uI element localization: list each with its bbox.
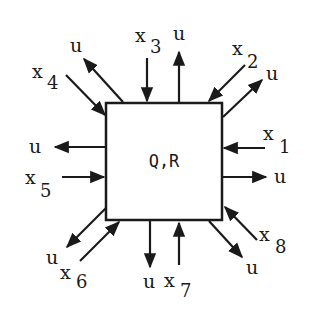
output-arrow-u-bottomright	[209, 221, 242, 257]
input-arrow-x8	[225, 207, 257, 240]
label-x4: x 4	[32, 60, 58, 93]
label-u-topleft: u	[70, 34, 82, 56]
label-u-top: u	[173, 22, 185, 44]
label-x5: x 5	[25, 166, 51, 201]
svg-text:x: x	[60, 261, 71, 283]
label-x7: x 7	[164, 269, 191, 301]
label-x1: x 1	[263, 122, 290, 157]
input-arrow-x2	[209, 65, 245, 101]
svg-text:x: x	[259, 223, 270, 245]
output-arrow-u-topright	[223, 80, 262, 117]
node-label: Q,R	[149, 151, 180, 171]
svg-text:5: 5	[40, 180, 51, 201]
svg-text:4: 4	[47, 72, 58, 93]
svg-text:8: 8	[275, 236, 286, 257]
svg-text:x: x	[164, 269, 175, 291]
label-x8: x 8	[259, 223, 286, 257]
label-u-left: u	[29, 135, 41, 157]
svg-text:x: x	[25, 166, 36, 188]
svg-text:1: 1	[279, 136, 290, 157]
svg-text:x: x	[32, 60, 43, 82]
label-u-bottomleft: u	[46, 246, 58, 268]
output-arrow-u-topleft	[84, 59, 123, 102]
svg-text:2: 2	[247, 51, 258, 72]
label-u-topright: u	[266, 62, 278, 84]
label-x6: x 6	[60, 261, 87, 292]
svg-text:x: x	[263, 122, 274, 144]
label-x3: x 3	[135, 24, 161, 57]
input-arrow-x4	[66, 75, 105, 115]
svg-text:x: x	[135, 24, 146, 46]
svg-text:6: 6	[76, 271, 87, 292]
label-u-bottomright: u	[246, 256, 258, 278]
svg-text:x: x	[232, 37, 243, 59]
label-u-right: u	[274, 165, 286, 187]
diagram-canvas: Q,R x 1 x 2 x 3 x 4 x 5 x 6	[0, 0, 310, 318]
label-u-bottom: u	[143, 270, 155, 292]
svg-text:3: 3	[150, 36, 161, 57]
label-x2: x 2	[232, 37, 258, 72]
svg-text:7: 7	[180, 280, 191, 301]
